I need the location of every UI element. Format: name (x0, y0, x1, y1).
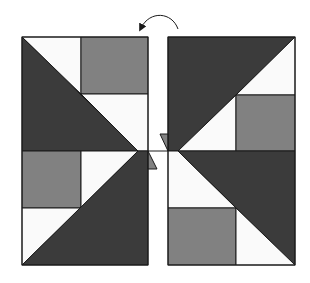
quilt-diagram (0, 0, 310, 283)
center-upper-tab (160, 134, 168, 151)
rotate-arrow-icon (141, 15, 178, 29)
bottom-right-gray-square (168, 208, 236, 265)
left-panel (22, 37, 148, 265)
top-left-gray-square (81, 37, 148, 94)
bottom-left-gray-square (22, 151, 81, 208)
right-panel (168, 37, 295, 265)
center-lower-tab (148, 151, 157, 169)
top-right-gray-square (236, 95, 295, 151)
